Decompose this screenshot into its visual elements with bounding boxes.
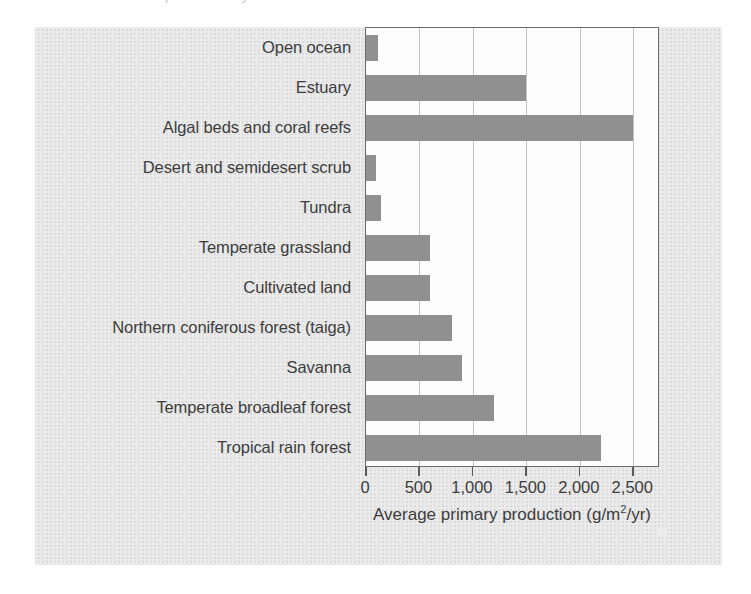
x-axis-tick-label: 2,500 xyxy=(612,478,653,497)
category-label-row: Estuary xyxy=(35,67,360,107)
category-label: Tropical rain forest xyxy=(217,438,351,457)
scan-top-cut-strip: and aquatic ecosystems xyxy=(0,0,751,12)
bar-row xyxy=(366,388,658,428)
bar-row xyxy=(366,428,658,468)
x-axis-title-tail: /yr) xyxy=(626,505,651,524)
category-label: Northern coniferous forest (taiga) xyxy=(112,318,351,337)
category-label-row: Tundra xyxy=(35,187,360,227)
x-axis-tick-label: 1,000 xyxy=(451,478,492,497)
category-label-row: Algal beds and coral reefs xyxy=(35,107,360,147)
bar xyxy=(366,315,452,341)
bar xyxy=(366,75,526,101)
category-label: Open ocean xyxy=(262,38,351,57)
category-label: Tundra xyxy=(300,198,351,217)
x-axis-title-main: Average primary production (g/m xyxy=(373,505,620,524)
bar xyxy=(366,275,430,301)
x-axis-tick xyxy=(418,467,420,476)
x-axis-tick-label: 2,000 xyxy=(558,478,599,497)
bar xyxy=(366,395,494,421)
bar-row xyxy=(366,68,658,108)
category-label: Algal beds and coral reefs xyxy=(163,118,351,137)
x-axis-tick xyxy=(579,467,581,476)
x-axis-tick xyxy=(632,467,634,476)
bar-row xyxy=(366,148,658,188)
category-label-row: Tropical rain forest xyxy=(35,427,360,467)
bar xyxy=(366,115,633,141)
figure-panel: Open oceanEstuaryAlgal beds and coral re… xyxy=(35,27,722,565)
category-label-row: Temperate broadleaf forest xyxy=(35,387,360,427)
bar-row xyxy=(366,348,658,388)
bar-row xyxy=(366,188,658,228)
scan-top-cut-text: and aquatic ecosystems xyxy=(120,0,292,3)
bar-row xyxy=(366,308,658,348)
category-label-row: Open ocean xyxy=(35,27,360,67)
plot-area xyxy=(365,27,659,467)
bar xyxy=(366,355,462,381)
x-axis-tick-label: 0 xyxy=(360,478,369,497)
category-label: Savanna xyxy=(287,358,351,377)
category-label: Temperate broadleaf forest xyxy=(156,398,351,417)
bar-row xyxy=(366,228,658,268)
x-axis-tick-label: 1,500 xyxy=(505,478,546,497)
x-axis-tick xyxy=(472,467,474,476)
x-axis-tick-label: 500 xyxy=(405,478,433,497)
category-axis-labels: Open oceanEstuaryAlgal beds and coral re… xyxy=(35,27,360,467)
bar xyxy=(366,435,601,461)
bar-row xyxy=(366,28,658,68)
x-axis-tick xyxy=(365,467,367,476)
category-label: Desert and semidesert scrub xyxy=(143,158,351,177)
bar xyxy=(366,195,381,221)
category-label-row: Savanna xyxy=(35,347,360,387)
x-axis: Average primary production (g/m2/yr) 050… xyxy=(365,467,659,527)
category-label-row: Desert and semidesert scrub xyxy=(35,147,360,187)
category-label: Cultivated land xyxy=(243,278,351,297)
horizontal-bar-chart: Open oceanEstuaryAlgal beds and coral re… xyxy=(35,27,722,527)
bars-container xyxy=(366,28,658,466)
bar xyxy=(366,155,376,181)
bar-row xyxy=(366,268,658,308)
category-label-row: Temperate grassland xyxy=(35,227,360,267)
x-axis-title: Average primary production (g/m2/yr) xyxy=(373,503,651,525)
bar xyxy=(366,235,430,261)
bar-row xyxy=(366,108,658,148)
scan-speckle xyxy=(657,529,667,537)
category-label-row: Cultivated land xyxy=(35,267,360,307)
category-label: Estuary xyxy=(296,78,351,97)
category-label: Temperate grassland xyxy=(199,238,351,257)
bar xyxy=(366,35,378,61)
category-label-row: Northern coniferous forest (taiga) xyxy=(35,307,360,347)
x-axis-tick xyxy=(525,467,527,476)
